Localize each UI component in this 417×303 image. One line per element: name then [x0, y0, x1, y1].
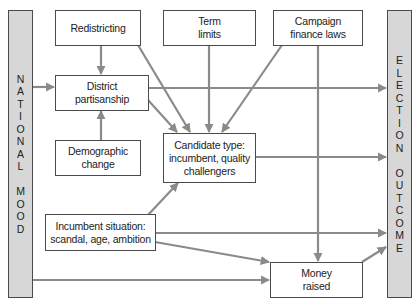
node-label: District partisanship	[75, 80, 129, 106]
node-redistricting: Redistricting	[55, 10, 141, 46]
node-demographic-change: Demographic change	[55, 140, 141, 176]
node-campaign-finance-laws: Campaign finance laws	[273, 10, 363, 46]
node-label: Redistricting	[70, 22, 125, 35]
node-district-partisanship: District partisanship	[55, 75, 149, 111]
arrow-incumbent-to-candidate	[148, 183, 178, 215]
node-label: Money raised	[301, 267, 332, 293]
node-label: Term limits	[198, 15, 221, 41]
node-term-limits: Term limits	[163, 10, 256, 46]
node-label: Candidate type: incumbent, quality chall…	[169, 139, 250, 178]
national-mood-bar: N A T I O N A L M O O D	[8, 10, 33, 298]
arrow-money-to-outcome	[362, 247, 386, 262]
node-label: Campaign finance laws	[290, 15, 345, 41]
arrow-incumbent-to-money	[155, 242, 269, 262]
node-label: Incumbent situation: scandal, age, ambit…	[50, 220, 151, 246]
node-money-raised: Money raised	[270, 262, 363, 298]
node-incumbent-situation: Incumbent situation: scandal, age, ambit…	[45, 214, 156, 251]
election-causal-diagram: N A T I O N A L M O O D E L E C T I O N …	[0, 0, 417, 303]
node-label: Demographic change	[68, 145, 128, 171]
election-outcome-bar: E L E C T I O N O U T C O M E	[387, 10, 412, 298]
node-candidate-type: Candidate type: incumbent, quality chall…	[163, 133, 256, 183]
